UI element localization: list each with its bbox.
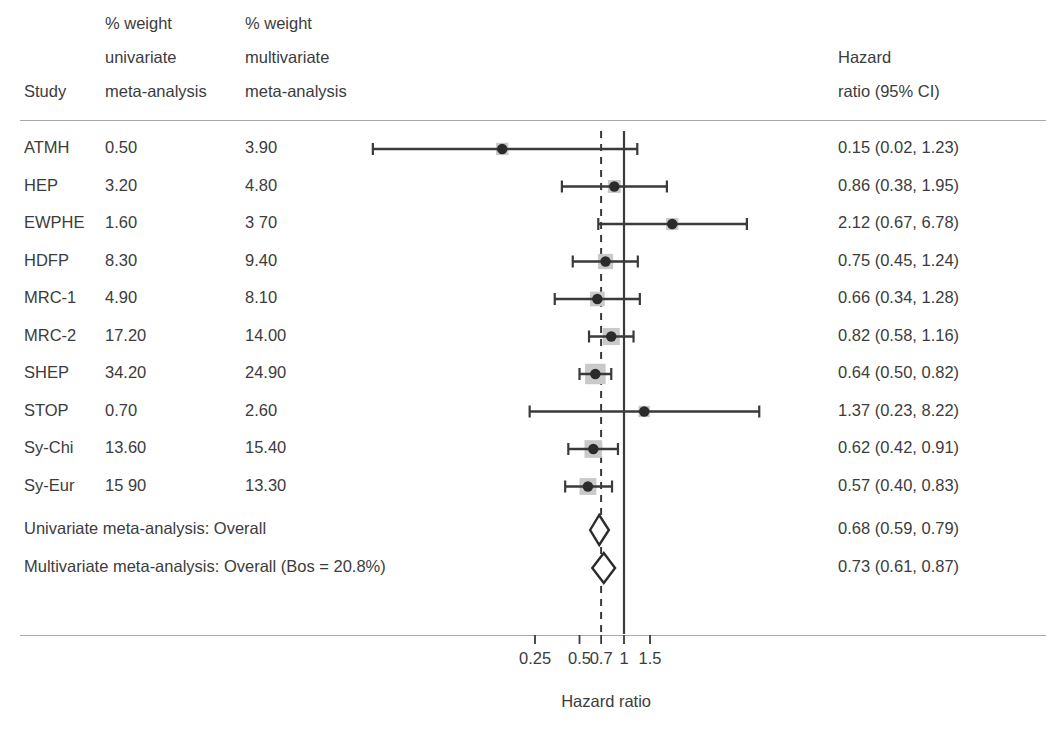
point-estimate-marker	[600, 256, 610, 266]
table-row-study: HDFP	[24, 251, 69, 270]
header-study: Study	[24, 82, 66, 101]
header-divider-rule	[20, 120, 1046, 121]
table-row-study: ATMH	[24, 138, 70, 157]
point-estimate-marker	[609, 181, 619, 191]
header-weight2-line2: multivariate	[245, 48, 329, 67]
table-row-weight-univariate: 0.70	[105, 401, 137, 420]
footer-divider-rule	[20, 635, 1046, 636]
table-row-study: STOP	[24, 401, 69, 420]
summary-row-hazard-ratio: 0.68 (0.59, 0.79)	[838, 519, 959, 538]
table-row-hazard-ratio: 0.86 (0.38, 1.95)	[838, 176, 959, 195]
table-row-hazard-ratio: 0.66 (0.34, 1.28)	[838, 288, 959, 307]
table-row-study: Sy-Eur	[24, 476, 74, 495]
summary-row-label: Multivariate meta-analysis: Overall (Bos…	[24, 557, 386, 576]
table-row-weight-multivariate: 3 70	[245, 213, 277, 232]
weight-box	[585, 364, 605, 384]
weight-box	[603, 328, 620, 345]
weight-box	[666, 218, 678, 230]
header-hazard-line1: Hazard	[838, 48, 891, 67]
axis-tick-label: 0.25	[519, 649, 551, 668]
header-weight2-line1: % weight	[245, 14, 312, 33]
point-estimate-marker	[497, 144, 507, 154]
axis-tick-label: 1.5	[634, 649, 666, 668]
table-row-weight-multivariate: 4.80	[245, 176, 277, 195]
table-row-hazard-ratio: 0.82 (0.58, 1.16)	[838, 326, 959, 345]
table-row-hazard-ratio: 0.64 (0.50, 0.82)	[838, 363, 959, 382]
point-estimate-marker	[590, 369, 600, 379]
summary-row-hazard-ratio: 0.73 (0.61, 0.87)	[838, 557, 959, 576]
summary-row-label: Univariate meta-analysis: Overall	[24, 519, 266, 538]
summary-diamond	[590, 515, 609, 545]
header-weight1-line1: % weight	[105, 14, 172, 33]
table-row-weight-univariate: 34.20	[105, 363, 146, 382]
axis-title: Hazard ratio	[541, 692, 671, 711]
table-row-study: EWPHE	[24, 213, 85, 232]
table-row-hazard-ratio: 0.15 (0.02, 1.23)	[838, 138, 959, 157]
table-row-weight-univariate: 15 90	[105, 476, 146, 495]
table-row-weight-univariate: 4.90	[105, 288, 137, 307]
point-estimate-marker	[583, 481, 593, 491]
table-row-hazard-ratio: 2.12 (0.67, 6.78)	[838, 213, 959, 232]
table-row-weight-multivariate: 13.30	[245, 476, 286, 495]
header-weight1-line3: meta-analysis	[105, 82, 207, 101]
header-weight1-line2: univariate	[105, 48, 177, 67]
table-row-weight-univariate: 1.60	[105, 213, 137, 232]
weight-box	[496, 143, 508, 155]
table-row-weight-multivariate: 3.90	[245, 138, 277, 157]
table-row-weight-univariate: 0.50	[105, 138, 137, 157]
weight-box	[585, 440, 603, 458]
point-estimate-marker	[592, 294, 602, 304]
table-row-hazard-ratio: 1.37 (0.23, 8.22)	[838, 401, 959, 420]
weight-box	[590, 292, 605, 307]
table-row-study: SHEP	[24, 363, 69, 382]
table-row-study: MRC-2	[24, 326, 76, 345]
point-estimate-marker	[639, 406, 649, 416]
table-row-weight-multivariate: 9.40	[245, 251, 277, 270]
summary-diamond	[592, 553, 615, 583]
weight-box	[608, 180, 621, 193]
table-row-hazard-ratio: 0.62 (0.42, 0.91)	[838, 438, 959, 457]
header-hazard-line2: ratio (95% CI)	[838, 82, 940, 101]
table-row-hazard-ratio: 0.57 (0.40, 0.83)	[838, 476, 959, 495]
weight-box	[598, 254, 613, 269]
table-row-weight-multivariate: 8.10	[245, 288, 277, 307]
header-weight2-line3: meta-analysis	[245, 82, 347, 101]
table-row-weight-univariate: 17.20	[105, 326, 146, 345]
table-row-weight-multivariate: 15.40	[245, 438, 286, 457]
table-row-weight-multivariate: 24.90	[245, 363, 286, 382]
table-row-study: HEP	[24, 176, 58, 195]
table-row-weight-univariate: 8.30	[105, 251, 137, 270]
table-row-weight-multivariate: 14.00	[245, 326, 286, 345]
point-estimate-marker	[588, 444, 598, 454]
forest-plot: % weight univariate meta-analysis % weig…	[0, 0, 1063, 736]
table-row-hazard-ratio: 0.75 (0.45, 1.24)	[838, 251, 959, 270]
table-row-weight-multivariate: 2.60	[245, 401, 277, 420]
table-row-weight-univariate: 13.60	[105, 438, 146, 457]
point-estimate-marker	[606, 331, 616, 341]
table-row-study: Sy-Chi	[24, 438, 74, 457]
point-estimate-marker	[667, 219, 677, 229]
weight-box	[639, 406, 650, 417]
weight-box	[579, 478, 596, 495]
table-row-weight-univariate: 3.20	[105, 176, 137, 195]
table-row-study: MRC-1	[24, 288, 76, 307]
